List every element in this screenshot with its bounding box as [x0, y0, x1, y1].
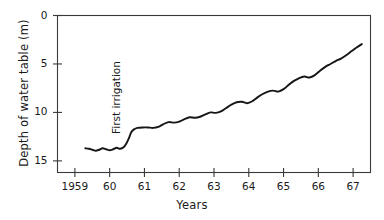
x-tick-label: 67	[330, 180, 376, 192]
chart-figure: Depth of water table (m) Years 051015195…	[0, 0, 384, 220]
y-tick-label: 10	[22, 105, 48, 117]
y-tick-label: 0	[22, 9, 48, 21]
annotation-first-irrigation: First irrigation	[110, 61, 122, 134]
tick-labels-layer: 05101519596061626364656667First irrigati…	[0, 0, 384, 220]
y-tick-label: 15	[22, 154, 48, 166]
y-tick-label: 5	[22, 57, 48, 69]
